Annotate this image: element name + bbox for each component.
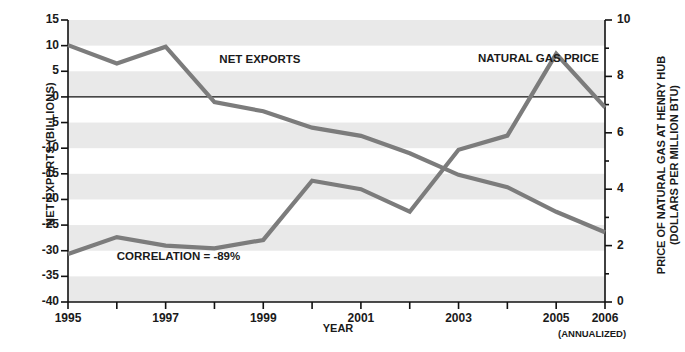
y-tick-label-left: 0	[25, 89, 59, 103]
x-tick-label: 2003	[429, 311, 489, 325]
y-tick-label-right: 6	[617, 125, 651, 139]
y-tick-label-left: -25	[25, 217, 59, 231]
y-tick-label-left: -30	[25, 243, 59, 257]
y-tick-label-right: 8	[617, 68, 651, 82]
x-tick-label: 2006	[575, 311, 635, 325]
y-tick-label-left: 10	[25, 38, 59, 52]
y-tick-label-right: 2	[617, 238, 651, 252]
y-tick-label-left: -5	[25, 115, 59, 129]
annotation-natural-gas-price: NATURAL GAS PRICE	[478, 52, 599, 64]
x-tick-label: 1997	[136, 311, 196, 325]
y-tick-label-left: 5	[25, 63, 59, 77]
x-tick-label: 2001	[331, 311, 391, 325]
y-tick-label-right: 10	[617, 12, 651, 26]
x-tick-label: 1995	[38, 311, 98, 325]
y-tick-label-left: -35	[25, 268, 59, 282]
y-tick-label-right: 4	[617, 181, 651, 195]
y-tick-label-left: -20	[25, 191, 59, 205]
annotation-net-exports: NET EXPORTS	[219, 53, 300, 65]
y-tick-label-right: 0	[617, 294, 651, 308]
y-tick-label-left: -40	[25, 294, 59, 308]
annotation-correlation: CORRELATION = -89%	[117, 250, 240, 262]
x-tick-label: 1999	[233, 311, 293, 325]
y-tick-label-left: 15	[25, 12, 59, 26]
y-tick-label-left: -15	[25, 166, 59, 180]
x-tick-sublabel: (ANNUALIZED)	[558, 328, 626, 339]
y-tick-label-left: -10	[25, 140, 59, 154]
